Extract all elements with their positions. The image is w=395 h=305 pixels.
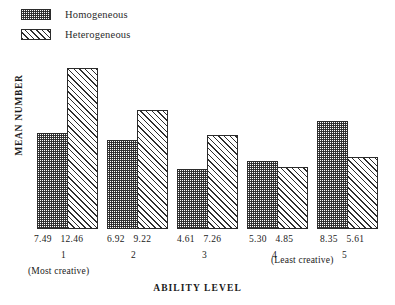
value-homogeneous-3: 4.61: [177, 234, 195, 244]
bar-heterogeneous-3: [207, 135, 238, 229]
y-axis-label: MEAN NUMBER: [14, 60, 24, 170]
x-tick-label-1: 1: [61, 250, 66, 260]
value-homogeneous-2: 6.92: [107, 234, 125, 244]
value-heterogeneous-2: 9.22: [134, 234, 152, 244]
note-most-creative: (Most creative): [28, 266, 89, 276]
value-homogeneous-5: 8.35: [320, 234, 338, 244]
note-least-creative: (Least creative): [271, 255, 334, 265]
bar-groups: [27, 0, 382, 229]
value-labels-group-1: 7.49 12.46: [34, 234, 83, 244]
value-heterogeneous-5: 5.61: [347, 234, 365, 244]
x-axis-label: ABILITY LEVEL: [0, 283, 395, 293]
value-heterogeneous-1: 12.46: [61, 234, 84, 244]
value-heterogeneous-4: 4.85: [276, 234, 294, 244]
bar-heterogeneous-4: [277, 167, 308, 229]
bar-heterogeneous-2: [137, 110, 168, 229]
bar-homogeneous-4: [247, 161, 278, 229]
x-tick-label-3: 3: [202, 250, 207, 260]
value-heterogeneous-3: 7.26: [204, 234, 222, 244]
value-homogeneous-1: 7.49: [34, 234, 52, 244]
value-homogeneous-4: 5.30: [249, 234, 267, 244]
value-labels-group-4: 5.30 4.85: [249, 234, 293, 244]
bar-heterogeneous-1: [67, 68, 98, 229]
bar-heterogeneous-5: [347, 157, 378, 229]
bar-homogeneous-3: [177, 169, 208, 229]
x-tick-label-5: 5: [342, 250, 347, 260]
bar-homogeneous-1: [37, 133, 68, 229]
value-labels-group-2: 6.92 9.22: [107, 234, 151, 244]
value-labels-group-3: 4.61 7.26: [177, 234, 221, 244]
bar-chart: MEAN NUMBER: [0, 0, 395, 305]
bar-homogeneous-5: [317, 121, 348, 229]
x-tick-label-2: 2: [131, 250, 136, 260]
bar-homogeneous-2: [107, 140, 138, 229]
value-labels-group-5: 8.35 5.61: [320, 234, 364, 244]
